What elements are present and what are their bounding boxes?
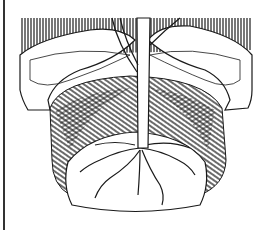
tree-planting-illustration (0, 0, 269, 230)
